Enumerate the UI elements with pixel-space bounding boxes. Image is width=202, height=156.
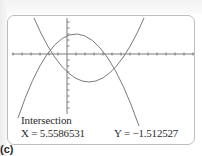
intersection-x-value: X = 5.5586531 bbox=[21, 127, 85, 139]
y-axis bbox=[67, 18, 70, 114]
intersection-label: Intersection bbox=[21, 114, 72, 126]
page-edge-strip bbox=[0, 0, 7, 156]
x-axis bbox=[12, 53, 194, 56]
page-background-band bbox=[0, 0, 202, 14]
calculator-screen: Intersection X = 5.5586531 Y = −1.512527 bbox=[7, 15, 195, 145]
panel-label: (c) bbox=[0, 143, 13, 155]
intersection-y-value: Y = −1.512527 bbox=[114, 127, 178, 139]
